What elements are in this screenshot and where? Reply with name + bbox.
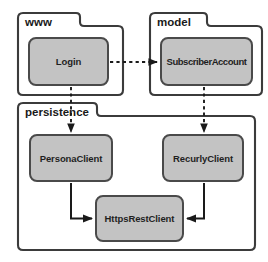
component-label-persona-client: PersonaClient (30, 135, 112, 181)
component-label-subscriber-account: SubscriberAccount (161, 38, 252, 85)
package-label-persistence: persistence (25, 107, 89, 119)
component-label-login: Login (29, 38, 108, 85)
package-label-model: model (157, 17, 191, 29)
package-diagram: www model persistence Login SubscriberAc… (0, 0, 268, 262)
component-label-recurly-client: RecurlyClient (163, 135, 243, 181)
component-label-https-rest-client: HttpsRestClient (96, 196, 183, 241)
package-label-www: www (25, 17, 52, 29)
